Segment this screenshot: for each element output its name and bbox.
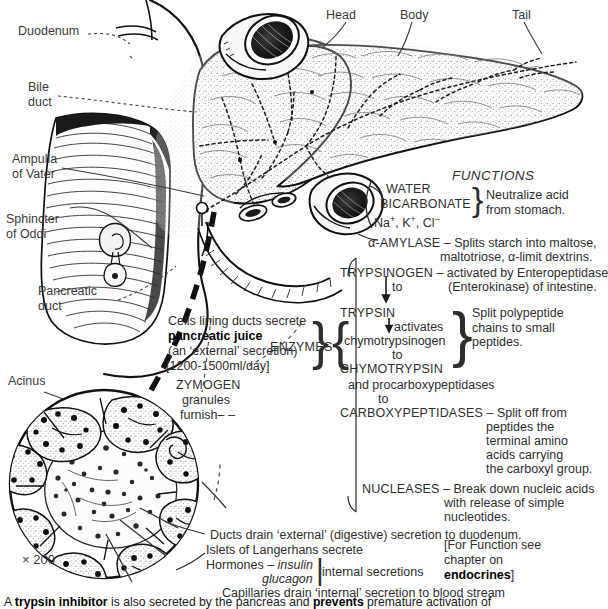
label-acinus: Acinus [8, 374, 46, 389]
function-water: WATER [386, 182, 431, 197]
note-volume-per-day: [1200-1500ml/day] [166, 359, 270, 374]
label-pancreatic-duct: Pancreatic duct [38, 284, 97, 314]
function-neutralize-acid: Neutralize acid from stomach. [486, 188, 569, 217]
endocrine-ref-line3: endocrines] [444, 568, 514, 583]
note-furnish: furnish– – [180, 408, 235, 423]
note-granules: granules [182, 393, 230, 408]
label-enzymes: ENZYMES [270, 340, 333, 355]
function-nucleases-line3: nucleotides. [444, 510, 511, 525]
function-nucleases: NUCLEASES – Break down nucleic acids [362, 482, 594, 497]
function-carboxypeptidases: CARBOXYPEPTIDASES – Split off from [340, 406, 567, 421]
note-pancreatic-juice: pancreatic juice [168, 329, 263, 344]
function-trypsin-activates: activates [394, 320, 443, 335]
function-amylase-line2: maltotriose, α-limit dextrins. [440, 250, 592, 265]
ampulla-of-vater-detail [100, 224, 131, 287]
function-trypsinogen: TRYPSINOGEN – activated by Enteropeptida… [340, 266, 608, 281]
brace-neutralize: } [472, 184, 483, 214]
label-ampulla-of-vater: Ampulla of Vater [12, 152, 57, 182]
function-ions: Na+, K+, Cl− [374, 212, 440, 231]
note-zymogen: ZYMOGEN [176, 378, 241, 393]
brace-enzymes-right: { [332, 318, 349, 364]
function-carboxy-line4: the carboxyl group. [486, 462, 592, 477]
cut-bowel-stump-top [220, 6, 309, 79]
label-tail: Tail [512, 8, 531, 23]
function-procarboxy-to: to [378, 392, 388, 407]
note-cells-lining-ducts: Cells lining ducts secrete [168, 314, 306, 329]
function-split-polypeptide: Split polypeptide chains to small peptid… [472, 306, 564, 350]
function-carboxy-line2: terminal amino [486, 434, 568, 449]
brace-polypeptide: } [452, 306, 473, 362]
label-duodenum: Duodenum [18, 24, 79, 39]
function-bicarbonate: BICARBONATE [380, 197, 471, 212]
note-hormones: Hormones – insulin [206, 558, 313, 573]
function-nucleases-line2: with release of simple [444, 496, 564, 511]
note-glucagon: glucagon [262, 572, 313, 587]
function-trypsinogen-to: to [392, 280, 402, 295]
functions-heading: FUNCTIONS [452, 168, 534, 183]
endocrine-ref-line2: chapter on [444, 553, 503, 568]
function-procarboxypeptidases: and procarboxypeptidases [348, 378, 495, 393]
endocrine-ref-line1: [For Function see [444, 538, 541, 553]
note-islets-langerhans: Islets of Langerhans secrete [206, 543, 363, 558]
function-enterokinase: (Enterokinase) of intestine. [448, 280, 597, 295]
footnote-trypsin-inhibitor: A trypsin inhibitor is also secreted by … [4, 595, 491, 609]
function-amylase: α-AMYLASE – Splits starch into maltose, [368, 236, 597, 251]
cut-bowel-stump-right [310, 174, 383, 235]
function-chymotrypsinogen-to: to [392, 348, 402, 363]
label-body: Body [400, 8, 429, 23]
label-head: Head [326, 8, 356, 23]
function-carboxy-line1: peptides the [486, 420, 554, 435]
function-carboxy-line3: acids carrying [486, 448, 563, 463]
note-internal-secretions: internal secretions [322, 565, 423, 580]
label-sphincter-of-oddi: Sphincter of Oddi [6, 212, 59, 242]
function-chymotrypsinogen: chymotrypsinogen [344, 334, 445, 349]
cut-vessels [238, 191, 298, 224]
function-chymotrypsin: CHYMOTRYPSIN [340, 362, 443, 377]
magnification-label: × 200 [22, 552, 55, 567]
label-bile-duct: Bile duct [28, 80, 52, 110]
